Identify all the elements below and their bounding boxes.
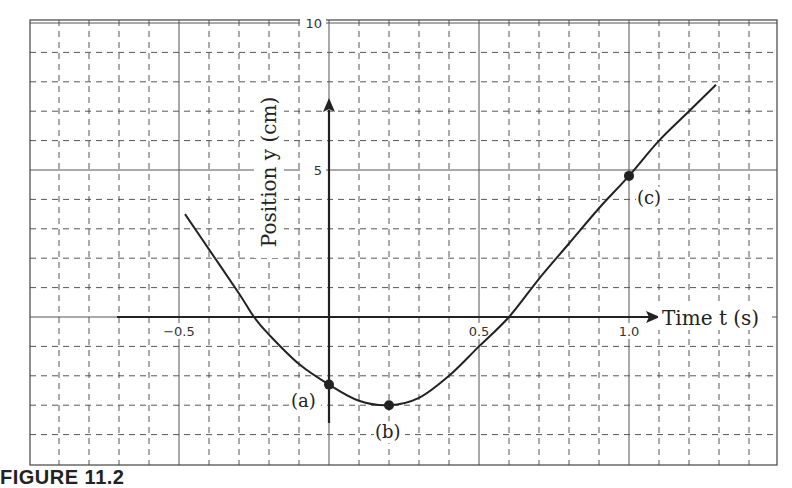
grid-dashed <box>30 20 777 465</box>
y-tick-label: 10 <box>305 16 322 31</box>
x-tick-labels: −0.50.51.0 <box>159 323 645 339</box>
figure-caption: FIGURE 11.2 <box>0 466 124 488</box>
x-tick-label: 1.0 <box>619 324 640 339</box>
point-label: (b) <box>375 421 401 442</box>
grid-solid <box>30 20 777 465</box>
x-tick-label: −0.5 <box>163 324 195 339</box>
data-point-marker <box>384 400 394 410</box>
data-point-marker <box>624 171 634 181</box>
x-tick-label: 0.5 <box>469 324 490 339</box>
point-label: (a) <box>291 390 316 411</box>
plot-frame <box>30 20 777 465</box>
data-point-marker <box>324 380 334 390</box>
y-tick-label: 5 <box>314 163 322 178</box>
x-axis-label: Time t (s) <box>662 306 759 330</box>
y-axis-label: Position y (cm) <box>257 97 281 248</box>
y-tick-labels: 510 <box>300 14 326 179</box>
point-label: (c) <box>637 187 661 208</box>
